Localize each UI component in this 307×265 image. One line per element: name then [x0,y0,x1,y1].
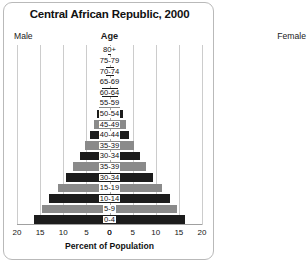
pyramid-row: 15-19 [17,183,202,194]
age-group-label: 80+ [17,45,202,56]
x-axis-title: Percent of Population [0,241,219,251]
pyramid-row: 35-39 [17,161,202,172]
age-group-label: 5-9 [17,204,202,215]
age-group-label: 55-59 [17,98,202,109]
pyramid-row: 35-39 [17,140,202,151]
pyramid-row: 5-9 [17,204,202,215]
pyramid-row: 30-34 [17,151,202,162]
x-axis-ticks: 2015105005101520 [17,228,202,240]
x-tick-label: 0 [107,228,111,237]
pyramid-plot-area: 80+75-7970-7465-6960-6455-5950-5445-4940… [17,45,202,225]
x-tick-label: 20 [198,228,207,237]
x-tick-label: 15 [174,228,183,237]
pyramid-row: 55-59 [17,98,202,109]
pyramid-rows: 80+75-7970-7465-6960-6455-5950-5445-4940… [17,45,202,225]
chart-title: Central African Republic, 2000 [0,8,219,20]
age-group-label: 70-74 [17,66,202,77]
pyramid-row: 80+ [17,45,202,56]
age-group-label: 50-54 [17,109,202,120]
age-group-label: 45-49 [17,119,202,130]
pyramid-row: 10-14 [17,193,202,204]
pyramid-row: 75-79 [17,56,202,67]
age-group-label: 40-44 [17,130,202,141]
gridline [202,45,203,225]
pyramid-row: 60-64 [17,87,202,98]
x-tick-label: 20 [13,228,22,237]
age-group-label: 60-64 [17,87,202,98]
age-group-label: 35-39 [17,161,202,172]
age-group-label: 30-34 [17,151,202,162]
age-group-label: 10-14 [17,193,202,204]
pyramid-row: 50-54 [17,109,202,120]
age-group-label: 15-19 [17,183,202,194]
x-tick-label: 5 [84,228,88,237]
x-tick-label: 15 [36,228,45,237]
age-group-label: 0-4 [17,214,202,225]
age-group-label: 65-69 [17,77,202,88]
pyramid-row: 30-34 [17,172,202,183]
age-group-label: 30-34 [17,172,202,183]
age-group-label: 75-79 [17,56,202,67]
x-tick-label: 5 [130,228,134,237]
age-axis-label: Age [0,31,219,41]
pyramid-row: 45-49 [17,119,202,130]
pyramid-row: 40-44 [17,130,202,141]
pyramid-row: 0-4 [17,214,202,225]
x-tick-label: 10 [151,228,160,237]
age-group-label: 35-39 [17,140,202,151]
pyramid-row: 65-69 [17,77,202,88]
pyramid-row: 70-74 [17,66,202,77]
x-tick-label: 10 [59,228,68,237]
